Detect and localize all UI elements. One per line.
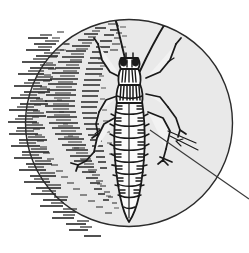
eye-left xyxy=(120,58,126,66)
thorax xyxy=(116,84,142,103)
eye-right xyxy=(132,58,138,66)
illustration-canvas: Magnified insect specimen with leader li… xyxy=(0,0,249,253)
insect-magnifier-illustration xyxy=(0,0,249,253)
pronotum xyxy=(118,68,140,85)
